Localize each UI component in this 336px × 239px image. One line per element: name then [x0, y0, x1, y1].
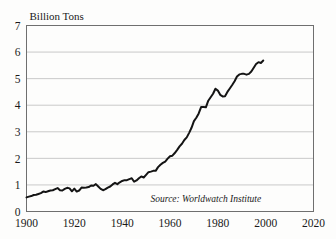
y-axis-title: Billion Tons: [30, 10, 84, 22]
y-tick-label-1: 1: [15, 179, 21, 191]
y-axis-tick-labels: 01234567: [15, 20, 21, 218]
source-note: Source: Worldwatch Institute: [151, 194, 262, 204]
x-tick-label-2000: 2000: [254, 217, 277, 229]
x-tick-label-1980: 1980: [206, 217, 229, 229]
y-tick-label-7: 7: [15, 20, 21, 32]
emissions-line-chart: 01234567 1900192019401960198020002020 Bi…: [0, 0, 336, 239]
y-tick-label-3: 3: [15, 126, 21, 138]
x-tick-label-1900: 1900: [15, 217, 38, 229]
x-tick-label-1940: 1940: [111, 217, 134, 229]
x-tick-label-1960: 1960: [159, 217, 182, 229]
x-axis-tick-labels: 1900192019401960198020002020: [15, 217, 325, 229]
y-tick-label-6: 6: [15, 46, 21, 58]
chart-container: 01234567 1900192019401960198020002020 Bi…: [0, 0, 336, 239]
y-tick-label-4: 4: [15, 99, 21, 111]
y-tick-label-2: 2: [15, 153, 21, 165]
x-tick-label-2020: 2020: [302, 217, 325, 229]
y-tick-label-5: 5: [15, 73, 21, 85]
plot-background: [27, 26, 314, 212]
x-tick-label-1920: 1920: [63, 217, 86, 229]
